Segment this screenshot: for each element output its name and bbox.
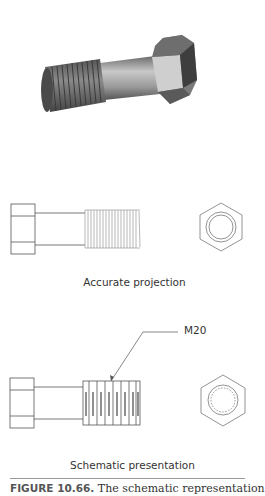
figure-caption-text: The schematic representation [94,482,264,495]
m20-leader-line [111,332,178,381]
caption-divider [10,478,245,479]
schematic-presentation-drawing [0,0,265,450]
m20-callout-label: M20 [184,324,206,336]
schematic-presentation-label: Schematic presentation [0,459,265,471]
figure-caption: FIGURE 10.66. The schematic representati… [10,482,265,495]
figure-number: FIGURE 10.66. [10,482,94,494]
